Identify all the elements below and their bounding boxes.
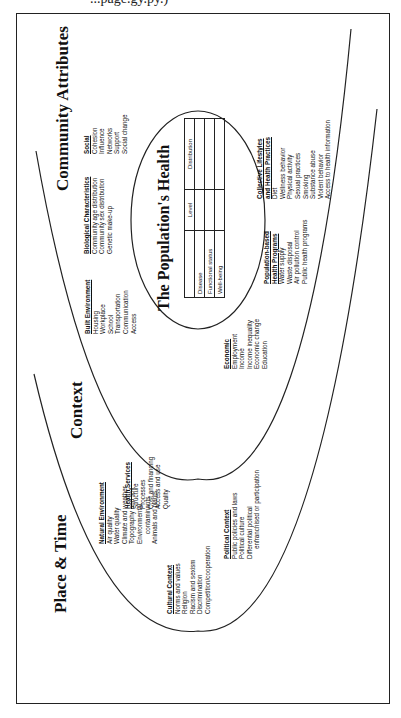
table-header-cell: Distribution: [185, 119, 195, 190]
economic-block: Economic Employment Income Income inequa…: [223, 319, 269, 369]
biological-characteristics-block: Biological Characteristics Community age…: [83, 177, 113, 254]
built-environment-block: Built Environment Housing Workplace Scho…: [84, 280, 137, 334]
political-context-block: Political Context Public policies and la…: [223, 470, 261, 559]
population-health-title: The Population's Health: [155, 145, 173, 311]
population-health-table: Level Distribution Disease Functional st…: [184, 118, 225, 298]
table-header-cell: [185, 231, 195, 298]
collective-lifestyles-block: Collective Lifestyles and Health Practic…: [256, 120, 332, 199]
population-programs-block: Population-based Health Programs Water s…: [263, 220, 309, 284]
social-block: Social Cohesion Influence Networks Suppo…: [83, 114, 129, 154]
community-attributes-title: Community Attributes: [53, 26, 73, 191]
table-row: Disease: [195, 119, 205, 298]
health-services-block: Health Services Structure Processes Cost…: [124, 457, 170, 509]
context-title: Context: [67, 381, 87, 439]
cultural-context-block: Cultural Context Norms and values Religi…: [166, 546, 212, 614]
table-row: Well-being: [215, 119, 225, 298]
table-header-cell: Level: [185, 190, 195, 231]
table-header-row: Level Distribution: [185, 119, 195, 298]
table-row: Functional status: [205, 119, 215, 298]
diagram-frame: Place & Time Context Community Attribute…: [16, 13, 390, 704]
header-fragment: ...page.gy.py.): [90, 0, 168, 7]
place-time-title: Place & Time: [51, 514, 71, 613]
